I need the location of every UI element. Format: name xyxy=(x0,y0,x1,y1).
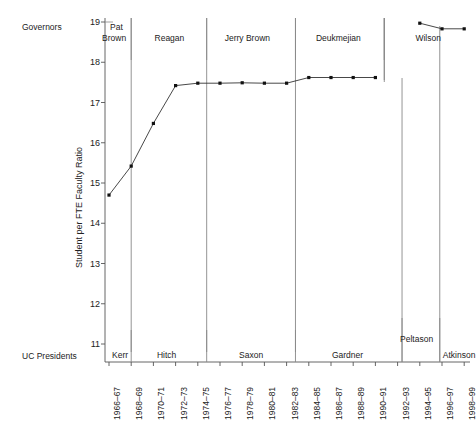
governor-label: Wilson xyxy=(415,34,441,43)
x-axis-tick-label: 1966–67 xyxy=(113,387,122,420)
data-point-marker xyxy=(196,82,199,85)
x-axis-tick-label: 1998–99 xyxy=(468,387,476,420)
y-axis-tick-label: 12 xyxy=(84,299,100,309)
governor-label: Reagan xyxy=(155,34,185,43)
data-point-marker xyxy=(329,76,332,79)
y-axis-tick-label: 11 xyxy=(84,339,100,349)
plot-canvas xyxy=(0,0,476,425)
x-axis-tick-label: 1972–73 xyxy=(180,387,189,420)
x-axis-tick-label: 1976–77 xyxy=(224,387,233,420)
y-axis-tick-label: 18 xyxy=(84,57,100,67)
x-axis-tick-label: 1996–97 xyxy=(446,387,455,420)
x-axis-tick-label: 1982–83 xyxy=(291,387,300,420)
president-label: Saxon xyxy=(239,351,263,360)
president-label: Gardner xyxy=(332,351,363,360)
data-point-marker xyxy=(307,76,310,79)
data-point-marker xyxy=(352,76,355,79)
data-point-marker xyxy=(241,81,244,84)
data-point-marker xyxy=(463,27,466,30)
governor-label: Brown xyxy=(102,34,126,43)
governor-label: Pat xyxy=(110,23,123,32)
president-label: Peltason xyxy=(400,335,433,344)
data-point-marker xyxy=(218,82,221,85)
chart-container: Governors UC Presidents Student per FTE … xyxy=(0,0,476,425)
x-axis-tick-label: 1980–81 xyxy=(268,387,277,420)
y-axis-tick-label: 17 xyxy=(84,98,100,108)
y-axis-tick-label: 13 xyxy=(84,259,100,269)
data-point-marker xyxy=(263,82,266,85)
x-axis-tick-label: 1990–91 xyxy=(379,387,388,420)
x-axis-tick-label: 1978–79 xyxy=(246,387,255,420)
data-point-marker xyxy=(418,22,421,25)
x-axis-tick-label: 1988–89 xyxy=(357,387,366,420)
x-axis-tick-label: 1992–93 xyxy=(402,387,411,420)
y-axis-tick-label: 15 xyxy=(84,178,100,188)
governor-label: Deukmejian xyxy=(316,34,361,43)
data-point-marker xyxy=(285,82,288,85)
data-line xyxy=(109,78,375,196)
x-axis-tick-label: 1970–71 xyxy=(157,387,166,420)
data-point-marker xyxy=(107,193,110,196)
x-axis-tick-label: 1994–95 xyxy=(424,387,433,420)
president-label: Kerr xyxy=(112,351,128,360)
x-axis-tick-label: 1968–69 xyxy=(135,387,144,420)
president-label: Hitch xyxy=(157,351,176,360)
data-point-marker xyxy=(174,84,177,87)
x-axis-tick-label: 1984–85 xyxy=(313,387,322,420)
data-point-marker xyxy=(130,164,133,167)
data-point-marker xyxy=(152,122,155,125)
y-axis-tick-label: 14 xyxy=(84,218,100,228)
governor-label: Jerry Brown xyxy=(225,34,270,43)
y-axis-tick-label: 19 xyxy=(84,17,100,27)
data-point-marker xyxy=(374,76,377,79)
y-axis-tick-label: 16 xyxy=(84,138,100,148)
data-point-marker xyxy=(440,27,443,30)
president-label: Atkinson xyxy=(443,351,476,360)
x-axis-tick-label: 1986–87 xyxy=(335,387,344,420)
x-axis-tick-label: 1974–75 xyxy=(202,387,211,420)
